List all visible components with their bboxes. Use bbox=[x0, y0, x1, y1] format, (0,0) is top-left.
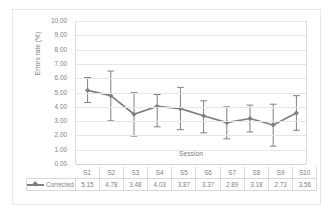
table-header-cell: S7 bbox=[220, 167, 244, 179]
y-axis-tick-label: 3.00 bbox=[21, 118, 67, 124]
y-axis-title: Errors rate (%) bbox=[34, 12, 41, 96]
table-header-cell: S8 bbox=[244, 167, 268, 179]
x-axis-title: Session bbox=[75, 150, 307, 157]
table-header-cell: S3 bbox=[123, 167, 147, 179]
y-axis-tick-label: 8.00 bbox=[21, 47, 67, 53]
y-axis-tick-label: 9.00 bbox=[21, 32, 67, 38]
table-value-row: Corrected 5.154.783.484.033.873.372.893.… bbox=[27, 179, 317, 191]
gridline bbox=[76, 135, 306, 136]
y-axis-tick-labels: 0.001.002.003.004.005.006.007.008.009.00… bbox=[21, 21, 67, 164]
table-header-cell: S4 bbox=[148, 167, 172, 179]
legend-entry-corrected: Corrected bbox=[27, 179, 76, 191]
legend-line-marker-icon bbox=[27, 181, 44, 188]
gridline bbox=[76, 21, 306, 22]
table-value-cell: 3.48 bbox=[123, 179, 147, 191]
table-header-cell: S1 bbox=[76, 167, 100, 179]
table-header-cell: S9 bbox=[269, 167, 293, 179]
table-value-cell: 3.37 bbox=[196, 179, 220, 191]
y-axis-tick-label: 5.00 bbox=[21, 90, 67, 96]
y-axis-tick-label: 7.00 bbox=[21, 61, 67, 67]
chart-container: 0.001.002.003.004.005.006.007.008.009.00… bbox=[12, 9, 321, 205]
table-header-cell: S5 bbox=[172, 167, 196, 179]
chart-data-table: S1S2S3S4S5S6S7S8S9S10 Corrected 5.154.78… bbox=[26, 167, 317, 191]
gridline bbox=[76, 107, 306, 108]
legend-label: Corrected bbox=[46, 181, 74, 188]
y-axis-tick-label: 1.00 bbox=[21, 147, 67, 153]
table-value-cell: 3.18 bbox=[244, 179, 268, 191]
y-axis-tick-label: 2.00 bbox=[21, 132, 67, 138]
table-value-cell: 3.87 bbox=[172, 179, 196, 191]
gridline bbox=[76, 78, 306, 79]
y-axis-tick-label: 6.00 bbox=[21, 75, 67, 81]
table-header-cell: S10 bbox=[293, 167, 317, 179]
table-value-cell: 4.78 bbox=[99, 179, 123, 191]
gridline bbox=[76, 93, 306, 94]
gridline bbox=[76, 35, 306, 36]
table-value-cell: 3.56 bbox=[293, 179, 317, 191]
gridline bbox=[76, 121, 306, 122]
table-header-cell: S2 bbox=[99, 167, 123, 179]
plot-area bbox=[75, 21, 307, 164]
table-value-cell: 2.89 bbox=[220, 179, 244, 191]
data-point-marker bbox=[201, 113, 206, 118]
table-header-cell: S6 bbox=[196, 167, 220, 179]
table-value-cell: 5.15 bbox=[76, 179, 100, 191]
gridline bbox=[76, 50, 306, 51]
y-axis-tick-label: 10.00 bbox=[21, 18, 67, 24]
gridline bbox=[76, 164, 306, 165]
table-value-cell: 2.73 bbox=[269, 179, 293, 191]
table-header-row: S1S2S3S4S5S6S7S8S9S10 bbox=[27, 167, 317, 179]
table-value-cell: 4.03 bbox=[148, 179, 172, 191]
gridline bbox=[76, 64, 306, 65]
y-axis-tick-label: 4.00 bbox=[21, 104, 67, 110]
header-corner-cell bbox=[27, 167, 76, 179]
